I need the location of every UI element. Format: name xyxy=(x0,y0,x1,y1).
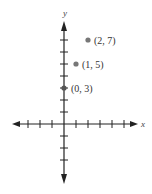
y-axis-label: y xyxy=(62,8,67,18)
x-axis-left-arrow-icon xyxy=(12,121,20,127)
x-axis-right-arrow-icon xyxy=(130,121,138,127)
y-axis-down-arrow-icon xyxy=(61,174,67,184)
x-axis-label: x xyxy=(140,119,145,129)
point-label: (0, 3) xyxy=(71,83,93,95)
y-axis-up-arrow-icon xyxy=(61,21,67,31)
point-label: (1, 5) xyxy=(82,59,104,71)
data-point-1-5: (1, 5) xyxy=(73,59,103,71)
data-point-2-7: (2, 7) xyxy=(85,35,115,47)
point-label: (2, 7) xyxy=(94,35,116,47)
data-point-0-3: (0, 3) xyxy=(61,83,92,95)
coordinate-plane: x y (0, 3) (1, 5) (2, 7) xyxy=(0,0,152,194)
